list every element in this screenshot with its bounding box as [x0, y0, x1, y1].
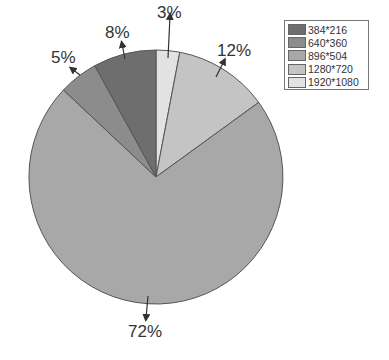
legend-label: 896*504: [308, 50, 347, 62]
legend-label: 1280*720: [308, 63, 353, 75]
legend-item: 1280*720: [288, 63, 368, 76]
chart-legend: 384*216 640*360 896*504 1280*720 1920*10…: [284, 20, 369, 90]
legend-swatch: [288, 64, 306, 75]
label-72pct: 72%: [128, 322, 162, 341]
legend-item: 1920*1080: [288, 76, 368, 89]
legend-swatch: [288, 24, 306, 35]
legend-item: 384*216: [288, 23, 368, 36]
legend-item: 640*360: [288, 36, 368, 49]
legend-swatch: [288, 37, 306, 48]
label-12pct: 12%: [217, 41, 251, 60]
label-3pct: 3%: [157, 3, 182, 22]
legend-label: 640*360: [308, 37, 347, 49]
legend-item: 896*504: [288, 49, 368, 62]
legend-swatch: [288, 50, 306, 61]
legend-label: 384*216: [308, 24, 347, 36]
legend-label: 1920*1080: [308, 76, 359, 88]
label-8pct: 8%: [105, 23, 130, 42]
label-5pct: 5%: [51, 48, 76, 67]
arrow-5pct: [72, 69, 80, 75]
legend-swatch: [288, 77, 306, 88]
